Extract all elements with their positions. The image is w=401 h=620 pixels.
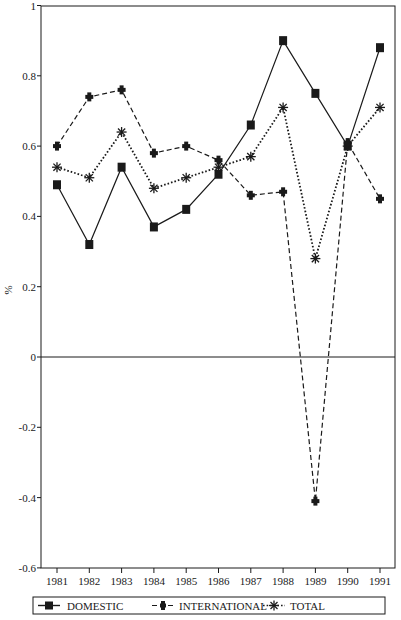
series-line <box>57 107 380 258</box>
y-tick-label: -0.6 <box>19 562 37 574</box>
asterisk-marker-icon <box>343 141 353 151</box>
asterisk-marker-icon <box>246 152 256 162</box>
square-marker-icon <box>85 240 93 249</box>
y-axis: -0.6-0.4-0.200.20.40.60.81 <box>19 0 41 574</box>
line-chart: -0.6-0.4-0.200.20.40.60.81 1981198219831… <box>0 0 401 620</box>
y-tick-label: -0.2 <box>19 421 36 433</box>
square-marker-icon <box>279 36 287 45</box>
square-marker-icon <box>247 121 255 130</box>
x-tick-label: 1989 <box>304 575 327 587</box>
series-line <box>57 41 380 245</box>
asterisk-marker-icon <box>269 601 279 611</box>
legend-item-international: INTERNATIONAL <box>152 600 267 612</box>
y-axis-label: % <box>2 285 14 294</box>
plus-marker-icon <box>182 142 190 151</box>
square-marker-icon <box>150 222 158 231</box>
y-tick-label: 0.2 <box>22 281 36 293</box>
asterisk-marker-icon <box>310 254 320 264</box>
y-tick-label: -0.4 <box>19 492 37 504</box>
asterisk-marker-icon <box>84 173 94 183</box>
square-marker-icon <box>45 602 53 610</box>
x-tick-label: 1986 <box>208 575 231 587</box>
x-tick-label: 1987 <box>240 575 263 587</box>
plot-frame <box>41 6 395 568</box>
y-tick-label: 0.6 <box>22 140 36 152</box>
square-marker-icon <box>182 205 190 214</box>
series-domestic <box>53 36 384 249</box>
plus-marker-icon <box>53 142 61 151</box>
asterisk-marker-icon <box>214 162 224 172</box>
series-international <box>53 85 384 505</box>
series-layer <box>52 36 385 505</box>
x-tick-label: 1982 <box>78 575 100 587</box>
asterisk-marker-icon <box>149 183 159 193</box>
y-tick-label: 0 <box>31 351 37 363</box>
x-axis: 1981198219831984198519861987198819891990… <box>46 568 391 587</box>
x-tick-label: 1985 <box>175 575 198 587</box>
plus-marker-icon <box>279 187 287 196</box>
x-tick-label: 1988 <box>272 575 295 587</box>
plus-marker-icon <box>311 497 319 506</box>
plus-marker-icon <box>376 194 384 203</box>
legend-label-total: TOTAL <box>290 600 325 612</box>
asterisk-marker-icon <box>278 102 288 112</box>
legend-label-domestic: DOMESTIC <box>67 600 123 612</box>
x-tick-label: 1983 <box>111 575 134 587</box>
x-tick-label: 1991 <box>369 575 391 587</box>
legend-item-total: TOTAL <box>263 600 325 612</box>
legend-label-international: INTERNATIONAL <box>179 600 267 612</box>
plus-marker-icon <box>118 85 126 94</box>
plus-marker-icon <box>160 601 166 610</box>
plus-marker-icon <box>85 92 93 101</box>
legend: DOMESTIC INTERNATIONAL TOTAL <box>33 597 385 614</box>
asterisk-marker-icon <box>375 102 385 112</box>
series-line <box>57 90 380 501</box>
plus-marker-icon <box>150 149 158 158</box>
legend-item-domestic: DOMESTIC <box>38 600 123 612</box>
x-tick-label: 1990 <box>337 575 360 587</box>
x-tick-label: 1981 <box>46 575 68 587</box>
square-marker-icon <box>118 163 126 172</box>
asterisk-marker-icon <box>52 162 62 172</box>
square-marker-icon <box>311 89 319 98</box>
y-tick-label: 0.8 <box>22 70 36 82</box>
asterisk-marker-icon <box>117 127 127 137</box>
square-marker-icon <box>53 180 61 189</box>
x-tick-label: 1984 <box>143 575 166 587</box>
square-marker-icon <box>376 43 384 52</box>
y-tick-label: 1 <box>31 0 37 12</box>
y-tick-label: 0.4 <box>22 210 36 222</box>
asterisk-marker-icon <box>181 173 191 183</box>
